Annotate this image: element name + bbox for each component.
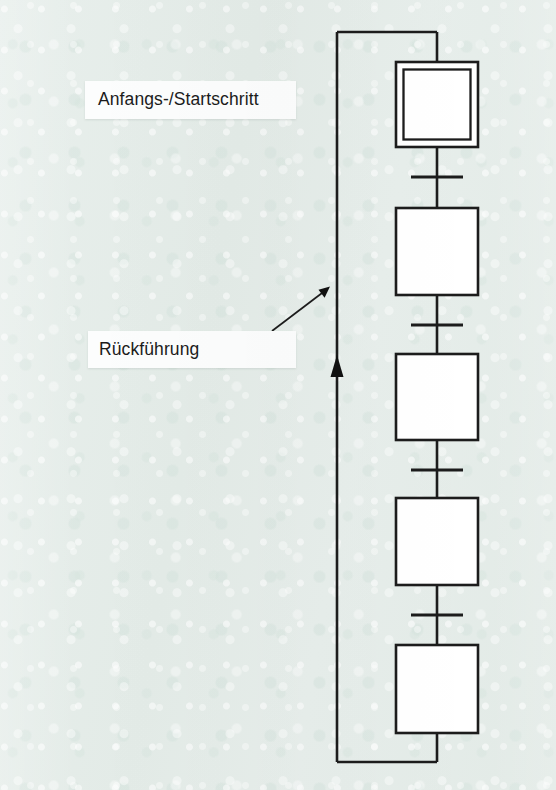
start-step-callout-label: Anfangs-/Startschritt bbox=[98, 91, 259, 109]
feedback-direction-arrowhead bbox=[331, 355, 344, 377]
feedback-callout-label: Rückführung bbox=[99, 341, 199, 359]
step-1-inner-border bbox=[404, 70, 471, 140]
step-4-border bbox=[396, 498, 478, 585]
start-step-callout: Anfangs-/Startschritt bbox=[85, 81, 296, 119]
leader-arrowhead-icon bbox=[319, 287, 331, 298]
step-3[interactable] bbox=[396, 354, 478, 440]
feedback-callout: Rückführung bbox=[88, 331, 296, 368]
feedback-callout-leader bbox=[272, 287, 330, 332]
step-5-border bbox=[396, 645, 478, 733]
leader-line bbox=[272, 290, 326, 331]
step-2[interactable] bbox=[396, 208, 478, 295]
step-2-border bbox=[396, 208, 478, 295]
step-5[interactable] bbox=[396, 645, 478, 733]
diagram-canvas: Anfangs-/Startschritt Rückführung bbox=[0, 0, 556, 790]
step-1-initial-step[interactable] bbox=[396, 62, 478, 147]
step-4[interactable] bbox=[396, 498, 478, 585]
step-3-border bbox=[396, 354, 478, 440]
